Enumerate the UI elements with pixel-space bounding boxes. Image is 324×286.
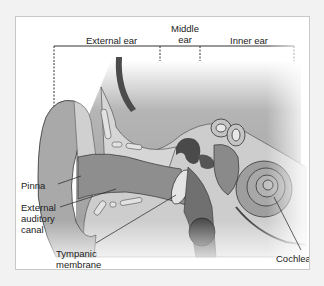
label-middle-ear-line1: Middle xyxy=(165,23,205,34)
label-inner-ear: Inner ear xyxy=(230,35,268,46)
callout-tympanic-line1: Tympanic xyxy=(56,248,101,259)
label-middle-ear: Middle ear xyxy=(165,23,205,45)
callout-tympanic-membrane: Tympanic membrane xyxy=(56,248,101,270)
callout-cochlea: Cochlea xyxy=(276,253,310,264)
callout-pinna: Pinna xyxy=(21,180,45,191)
callout-eac-line2: auditory xyxy=(21,213,56,224)
callout-tympanic-line2: membrane xyxy=(56,259,101,270)
label-middle-ear-line2: ear xyxy=(165,34,205,45)
ear-illustration xyxy=(16,17,310,270)
callout-external-auditory-canal: External auditory canal xyxy=(21,202,56,235)
callout-eac-line1: External xyxy=(21,202,56,213)
callout-eac-line3: canal xyxy=(21,224,56,235)
label-external-ear: External ear xyxy=(86,35,137,46)
diagram-frame: External ear Middle ear Inner ear Pinna … xyxy=(15,16,310,270)
